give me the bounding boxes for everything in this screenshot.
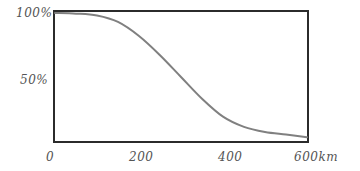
chart-canvas [0,0,360,171]
x-tick-600-km: 600km [294,150,338,164]
data-curve [55,13,307,137]
y-tick-100: 100% [16,6,52,20]
y-tick-50: 50% [20,73,48,87]
x-tick-400: 400 [218,150,242,164]
x-tick-0: 0 [46,150,54,164]
x-tick-200: 200 [129,150,153,164]
